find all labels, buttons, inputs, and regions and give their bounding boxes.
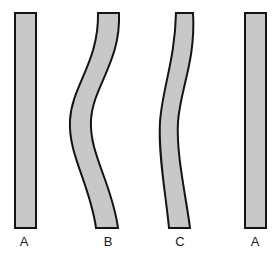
shape-label-c: C [175,234,184,249]
shape-a-left-path [15,13,36,228]
shape-a-right-path [245,13,266,228]
shape-group-a-right: A [245,13,266,249]
shape-label-a-right: A [251,234,260,249]
shape-label-b: B [104,234,113,249]
buckling-mode-diagram: A B C A [0,0,278,254]
shape-label-a-left: A [20,234,29,249]
diagram-background [0,0,278,254]
shape-group-a-left: A [15,13,36,249]
diagram-canvas: A B C A [0,0,278,254]
